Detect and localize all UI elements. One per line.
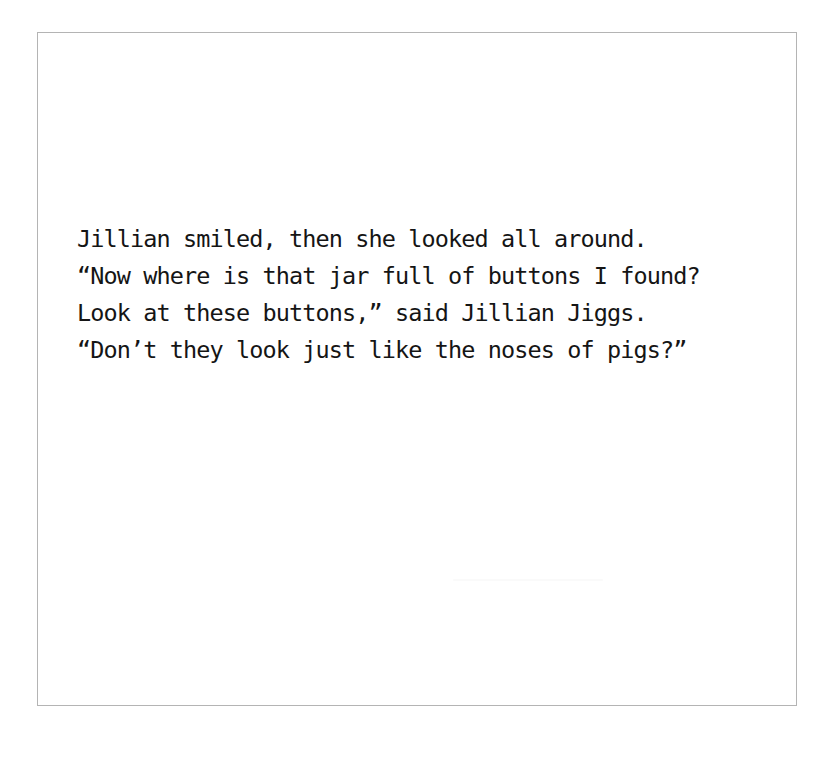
- book-page-scan: Jillian smiled, then she looked all arou…: [0, 0, 832, 771]
- verse-line-4: “Don’t they look just like the noses of …: [77, 332, 757, 369]
- verse-line-3: Look at these buttons,” said Jillian Jig…: [77, 295, 757, 332]
- scan-artifact-line: [453, 579, 603, 581]
- verse-line-2: “Now where is that jar full of buttons I…: [77, 258, 757, 295]
- verse-line-1: Jillian smiled, then she looked all arou…: [77, 221, 757, 258]
- verse-block: Jillian smiled, then she looked all arou…: [77, 221, 757, 369]
- page-sheet: Jillian smiled, then she looked all arou…: [37, 32, 797, 706]
